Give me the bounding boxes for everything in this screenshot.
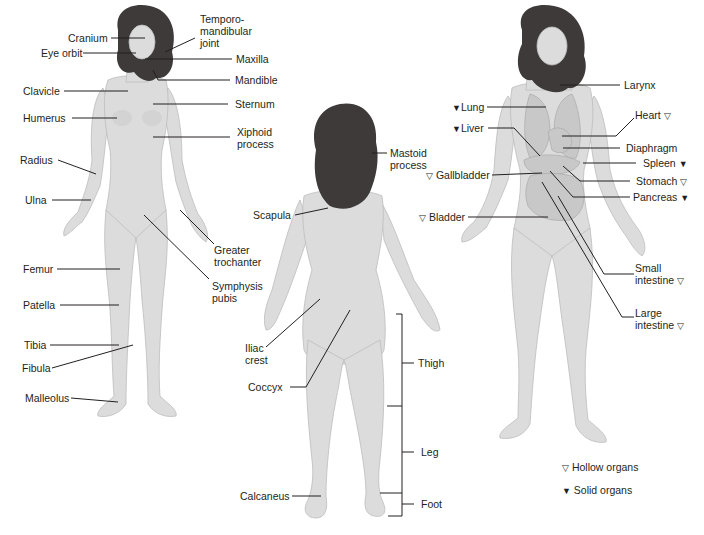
label-cranium: Cranium bbox=[68, 32, 108, 44]
label-femur: Femur bbox=[23, 263, 53, 275]
figure-anterior-organs bbox=[462, 5, 645, 442]
label-symphysis-pubis: Symphysis pubis bbox=[212, 280, 263, 304]
solid-organ-icon: ▼ bbox=[452, 103, 461, 113]
hollow-organ-icon: ▽ bbox=[680, 177, 687, 187]
label-bladder: ▽ Bladder bbox=[419, 211, 465, 224]
label-heart: Heart ▽ bbox=[635, 109, 671, 122]
label-spleen: Spleen ▼ bbox=[643, 157, 688, 170]
hollow-organ-icon: ▽ bbox=[677, 321, 684, 331]
label-iliac-crest: Iliac crest bbox=[245, 342, 268, 366]
label-diaphragm: Diaphragm bbox=[626, 142, 677, 154]
label-tibia: Tibia bbox=[24, 339, 46, 351]
solid-organ-icon: ▼ bbox=[680, 193, 689, 203]
label-maxilla: Maxilla bbox=[236, 53, 269, 65]
hollow-organ-icon: ▽ bbox=[426, 171, 433, 181]
hollow-organ-icon: ▽ bbox=[677, 276, 684, 286]
hollow-organ-icon: ▽ bbox=[419, 213, 426, 223]
label-temporomandibular-joint: Temporo- mandibular joint bbox=[200, 13, 252, 49]
label-region-foot: Foot bbox=[421, 498, 442, 510]
label-gallbladder: ▽ Gallbladder bbox=[426, 169, 490, 182]
label-region-thigh: Thigh bbox=[418, 357, 444, 369]
label-mastoid-process: Mastoid process bbox=[390, 147, 427, 171]
label-lung: ▼Lung bbox=[452, 101, 484, 114]
label-humerus: Humerus bbox=[23, 112, 66, 124]
label-large-intestine: Large intestine ▽ bbox=[635, 307, 684, 332]
label-small-intestine: Small intestine ▽ bbox=[635, 262, 684, 287]
label-eye-orbit: Eye orbit bbox=[41, 47, 82, 59]
label-pancreas: Pancreas ▼ bbox=[633, 191, 689, 204]
anatomy-diagram bbox=[0, 0, 704, 535]
solid-organ-icon: ▼ bbox=[452, 124, 461, 134]
figure-anterior-skeletal bbox=[64, 5, 208, 417]
label-calcaneus: Calcaneus bbox=[240, 490, 290, 502]
label-fibula: Fibula bbox=[22, 362, 51, 374]
label-liver: ▼Liver bbox=[452, 122, 484, 135]
label-xiphoid-process: Xiphoid process bbox=[237, 126, 274, 150]
legend-item-solid: ▼ Solid organs bbox=[562, 484, 638, 497]
label-mandible: Mandible bbox=[235, 74, 278, 86]
legend-item-hollow: ▽ Hollow organs bbox=[562, 461, 638, 474]
hollow-organ-icon: ▽ bbox=[562, 463, 569, 473]
hollow-organ-icon: ▽ bbox=[664, 111, 671, 121]
solid-organ-icon: ▼ bbox=[679, 159, 688, 169]
label-ulna: Ulna bbox=[25, 194, 47, 206]
label-stomach: Stomach ▽ bbox=[636, 175, 687, 188]
label-radius: Radius bbox=[20, 154, 53, 166]
label-region-leg: Leg bbox=[421, 446, 439, 458]
label-greater-trochanter: Greater trochanter bbox=[214, 244, 261, 268]
label-larynx: Larynx bbox=[624, 79, 656, 91]
label-coccyx: Coccyx bbox=[248, 381, 282, 393]
label-sternum: Sternum bbox=[235, 98, 275, 110]
label-clavicle: Clavicle bbox=[23, 85, 60, 97]
label-scapula: Scapula bbox=[253, 209, 291, 221]
label-malleolus: Malleolus bbox=[25, 392, 69, 404]
legend: ▽ Hollow organs ▼ Solid organs bbox=[562, 461, 638, 497]
solid-organ-icon: ▼ bbox=[562, 486, 571, 496]
label-patella: Patella bbox=[23, 299, 55, 311]
